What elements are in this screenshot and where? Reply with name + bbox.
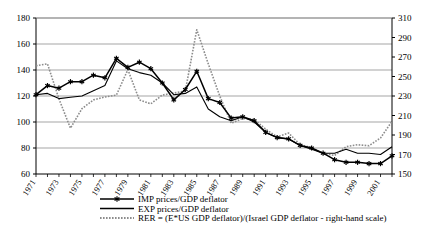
y-tick-label-left: 160 — [17, 39, 31, 49]
legend-item: RER = (E*US GDP deflator)/(Israel GDP de… — [100, 213, 387, 223]
chart-figure: 6080100120140160180 15017019021023025027… — [0, 0, 428, 236]
legend-label: IMP prices/GDP deflator — [138, 194, 228, 204]
y-tick-label-left: 140 — [17, 65, 31, 75]
y-tick-label-right: 230 — [398, 91, 412, 101]
y-tick-label-right: 310 — [398, 13, 412, 23]
y-tick-label-left: 120 — [17, 91, 31, 101]
y-tick-label-left: 80 — [21, 143, 31, 153]
legend-label: RER = (E*US GDP deflator)/(Israel GDP de… — [138, 213, 387, 223]
y-tick-label-right: 210 — [398, 111, 412, 121]
y-tick-label-left: 180 — [17, 13, 31, 23]
y-tick-label-right: 150 — [398, 169, 412, 179]
y-tick-label-right: 270 — [398, 52, 412, 62]
legend-label: EXP prices/GDP deflator — [138, 204, 229, 214]
y-tick-label-right: 190 — [398, 130, 412, 140]
y-tick-label-left: 100 — [17, 117, 31, 127]
chart-canvas: 6080100120140160180 15017019021023025027… — [0, 0, 428, 236]
y-tick-label-right: 170 — [398, 150, 412, 160]
y-tick-label-right: 250 — [398, 72, 412, 82]
y-tick-label-right: 290 — [398, 33, 412, 43]
